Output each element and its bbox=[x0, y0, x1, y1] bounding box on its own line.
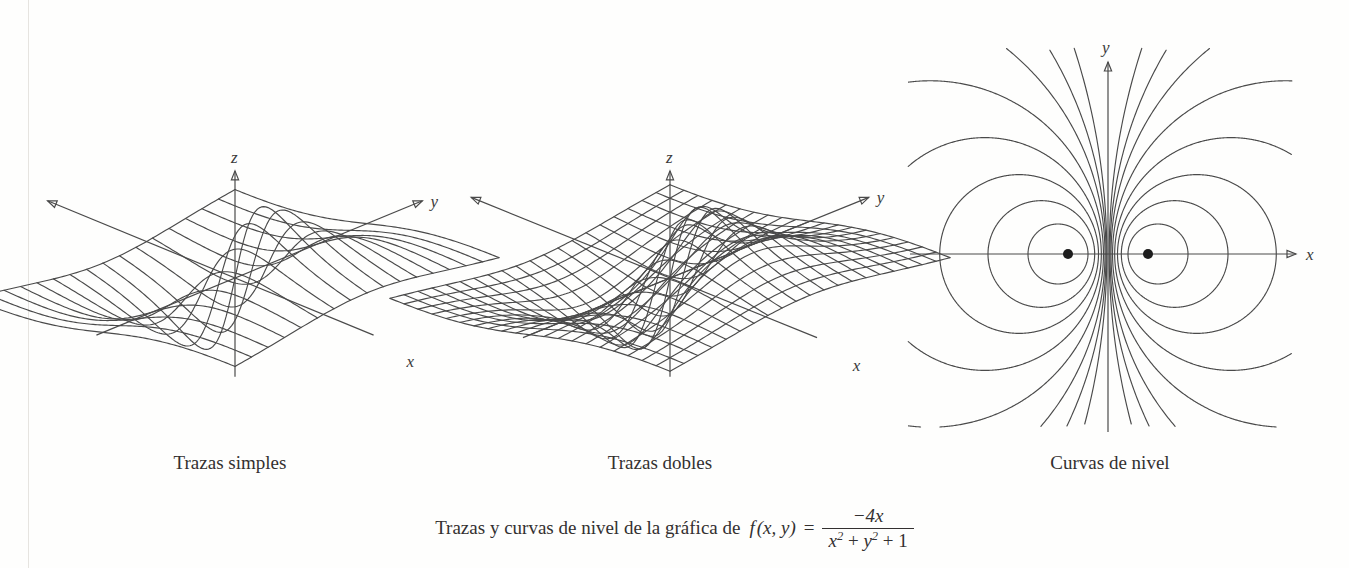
panel-double-traces: x y z bbox=[450, 40, 890, 440]
den-x-exponent: 2 bbox=[837, 529, 843, 543]
fraction: −4x x2 + y2 + 1 bbox=[822, 506, 913, 552]
caption-level-curves: Curvas de nivel bbox=[880, 452, 1340, 474]
surface-traces bbox=[0, 190, 499, 367]
fraction-denominator: x2 + y2 + 1 bbox=[822, 529, 913, 552]
level-curves-svg: x y bbox=[900, 40, 1320, 440]
axis-label-z: z bbox=[230, 148, 238, 167]
function-arguments: (x, y) bbox=[757, 517, 796, 539]
axis-label-x: x bbox=[1305, 245, 1314, 264]
axis-label-x: x bbox=[405, 352, 414, 371]
den-plus-1: + bbox=[848, 530, 859, 551]
den-x: x bbox=[828, 530, 836, 551]
axis-label-y: y bbox=[428, 192, 438, 211]
level-curve-set bbox=[908, 48, 1292, 427]
surface-mesh bbox=[390, 185, 950, 371]
den-one: 1 bbox=[898, 530, 908, 551]
surface-mesh-svg: x y z bbox=[450, 40, 890, 440]
figure-root: x y z x y z x y Trazas simples Trazas do… bbox=[0, 0, 1349, 568]
panel-single-traces: x y z bbox=[40, 40, 430, 440]
axes-3d-single bbox=[48, 171, 423, 377]
surface-single-traces-svg: x y z bbox=[40, 40, 430, 440]
panel-level-curves: x y bbox=[900, 40, 1320, 440]
caption-single-traces: Trazas simples bbox=[0, 452, 460, 474]
critical-point-dot bbox=[1143, 249, 1153, 259]
main-caption: Trazas y curvas de nivel de la gráfica d… bbox=[0, 505, 1349, 551]
page-left-rule bbox=[28, 0, 29, 568]
den-y-exponent: 2 bbox=[872, 529, 878, 543]
caption-double-traces: Trazas dobles bbox=[430, 452, 890, 474]
axis-label-z: z bbox=[665, 148, 673, 167]
den-plus-2: + bbox=[883, 530, 894, 551]
axis-label-y: y bbox=[1100, 38, 1110, 57]
fraction-numerator: −4x bbox=[847, 506, 890, 528]
axis-label-x: x bbox=[852, 356, 861, 375]
equals-sign: = bbox=[804, 517, 815, 539]
critical-point-dot bbox=[1063, 249, 1073, 259]
den-y: y bbox=[863, 530, 871, 551]
axes-3d-double bbox=[471, 171, 869, 377]
caption-lead-text: Trazas y curvas de nivel de la gráfica d… bbox=[435, 517, 740, 539]
axis-label-y: y bbox=[875, 188, 885, 207]
function-name: f bbox=[749, 517, 754, 539]
